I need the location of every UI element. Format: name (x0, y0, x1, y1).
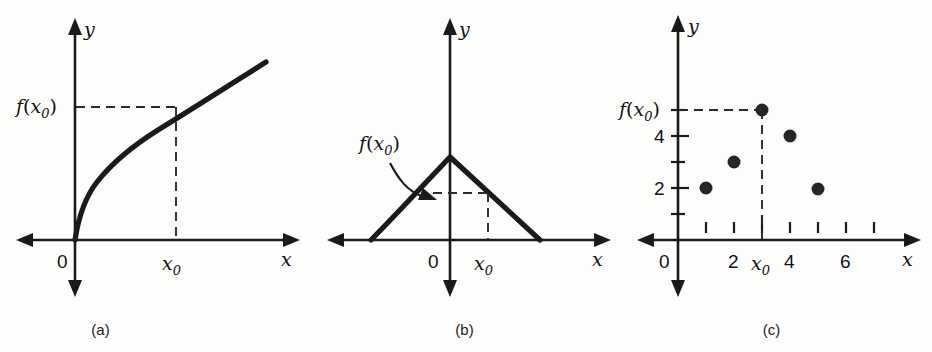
x-axis (16, 233, 300, 247)
y-ticks (671, 110, 689, 214)
x-tick-label-6: 6 (840, 251, 851, 272)
panel-c-plot: y x 0 2 x0 4 6 2 4 f(x0) (621, 0, 932, 310)
panel-caption-a: (a) (0, 321, 256, 338)
data-point (812, 183, 825, 196)
panel-c: y x 0 2 x0 4 6 2 4 f(x0) (c) (621, 0, 932, 352)
data-point (756, 104, 769, 117)
data-point (700, 182, 713, 195)
y-axis-label: y (687, 15, 699, 37)
y-axis (68, 18, 82, 297)
function-curve (75, 62, 266, 240)
y-axis-label: y (83, 18, 95, 40)
data-point (728, 156, 741, 169)
panel-caption-b: (b) (309, 321, 620, 338)
origin-label: 0 (659, 251, 670, 272)
x-axis-label: x (281, 248, 292, 270)
fx0-label: f(x0) (617, 98, 660, 124)
x0-label: x0 (751, 252, 770, 278)
x-tick-label-4: 4 (784, 251, 795, 272)
fx0-label: f(x0) (357, 132, 400, 158)
x0-label: x0 (162, 252, 181, 278)
x-axis-label: x (902, 248, 913, 270)
panel-a-plot: y x 0 x0 f(x0) (0, 0, 311, 310)
fx0-label: f(x0) (14, 95, 57, 121)
data-point (784, 130, 797, 143)
panel-a: y x 0 x0 f(x0) (a) (0, 0, 311, 352)
x-axis-label: x (592, 248, 603, 270)
panel-b-plot: y x 0 x0 f(x0) (311, 0, 622, 310)
origin-label: 0 (57, 251, 68, 272)
figure-container: y x 0 x0 f(x0) (a) (0, 0, 932, 352)
x-tick-label-2: 2 (728, 251, 739, 272)
y-axis (671, 15, 685, 297)
x-axis (637, 233, 921, 247)
panel-caption-c: (c) (616, 321, 927, 338)
panel-b: y x 0 x0 f(x0) (b) (311, 0, 622, 352)
y-tick-label-2: 2 (654, 178, 665, 199)
y-tick-label-4: 4 (654, 126, 665, 147)
x-ticks (706, 215, 874, 233)
origin-label: 0 (428, 251, 439, 272)
y-axis-label: y (458, 18, 470, 40)
function-curve (371, 157, 540, 240)
x0-label: x0 (474, 252, 493, 278)
